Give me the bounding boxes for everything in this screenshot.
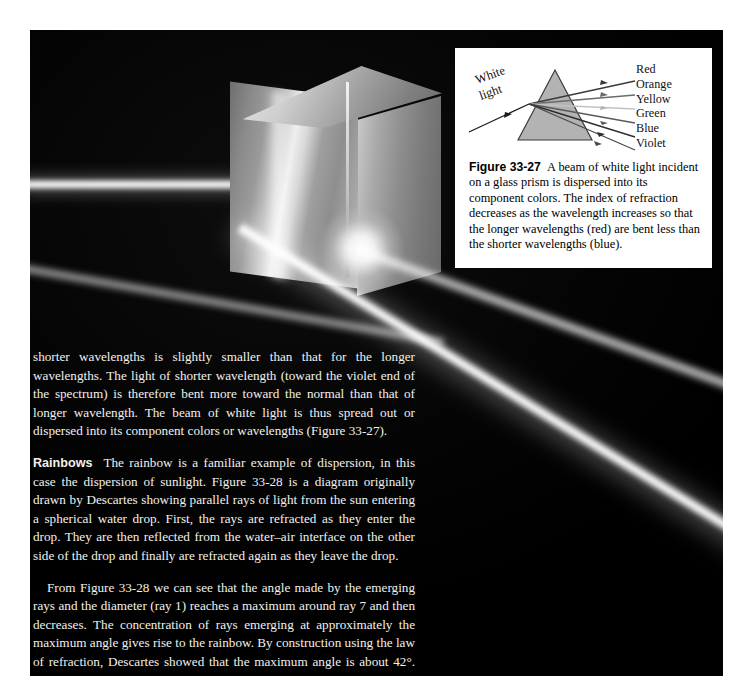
ray-label-red: Red [636, 62, 712, 77]
ray-label-blue: Blue [636, 121, 712, 136]
ray-red-arrowhead [600, 80, 608, 85]
figure-inset-panel: White light Red Orange Yellow Green Blue… [455, 48, 712, 268]
paragraph-descartes: From Figure 33-28 we can see that the an… [33, 579, 415, 676]
ray-orange-arrowhead [600, 92, 608, 97]
body-text-column: shorter wavelengths is slightly smaller … [33, 348, 415, 676]
prism-dispersion-diagram: White light Red Orange Yellow Green Blue… [455, 48, 712, 156]
ray-label-green: Green [636, 106, 712, 121]
white-light-label-line1: White [473, 63, 507, 87]
ray-label-yellow: Yellow [636, 92, 712, 107]
paragraph-rainbows: Rainbows The rainbow is a familiar examp… [33, 454, 415, 566]
incident-ray-line [469, 104, 529, 132]
ray-color-labels: Red Orange Yellow Green Blue Violet [636, 62, 712, 151]
textbook-page: shorter wavelengths is slightly smaller … [0, 0, 738, 687]
ray-violet-arrowhead [594, 141, 602, 146]
figure-number: Figure 33-27 [469, 160, 541, 174]
paragraph-dispersion: shorter wavelengths is slightly smaller … [33, 348, 415, 441]
paragraph-rainbows-text: The rainbow is a familiar example of dis… [33, 455, 415, 563]
figure-caption: Figure 33-27 A beam of white light incid… [469, 160, 701, 252]
runhead-rainbows: Rainbows [33, 456, 92, 470]
incident-light-beam [30, 178, 242, 191]
ray-label-violet: Violet [636, 136, 712, 151]
ray-label-orange: Orange [636, 77, 712, 92]
ray-yellow-arrowhead [600, 106, 608, 110]
ray-green-arrowhead [600, 121, 608, 125]
